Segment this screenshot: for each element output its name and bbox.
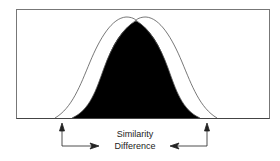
similarity-label: Similarity: [95, 129, 175, 139]
right-arrow: [170, 123, 210, 149]
arrowhead-up-icon: [205, 123, 210, 131]
left-arrow: [60, 123, 100, 149]
arrowhead-up-icon: [60, 123, 65, 131]
difference-label: Difference: [95, 141, 175, 151]
